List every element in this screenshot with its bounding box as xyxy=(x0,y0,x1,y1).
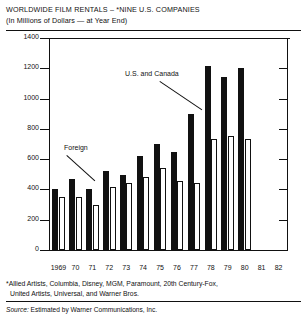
bar-domestic-76 xyxy=(171,152,177,250)
source-prefix: Source: xyxy=(6,306,29,313)
x-tick-label-80: 80 xyxy=(236,264,253,271)
footnote-line-1: *Allied Artists, Columbia, Disney, MGM, … xyxy=(6,279,301,289)
x-axis-line xyxy=(40,250,288,251)
y-tick-mark xyxy=(40,189,49,190)
bar-group-79 xyxy=(219,38,236,250)
bar-group-81 xyxy=(253,38,270,250)
bar-foreign-78 xyxy=(211,139,217,250)
y-tick-mark xyxy=(40,159,49,160)
bar-domestic-1969 xyxy=(52,189,58,250)
y-tick-label: 800 xyxy=(9,124,39,131)
y-tick-label: 1200 xyxy=(9,63,39,70)
y-tick-label: 400 xyxy=(9,184,39,191)
bar-foreign-76 xyxy=(177,181,183,250)
source-text: Estimated by Warner Communications, Inc. xyxy=(31,306,158,313)
x-tick-label-72: 72 xyxy=(101,264,118,271)
x-tick-label-81: 81 xyxy=(253,264,270,271)
bar-foreign-77 xyxy=(194,183,200,250)
bar-foreign-74 xyxy=(143,177,149,250)
bar-group-78 xyxy=(202,38,219,250)
source-divider xyxy=(6,301,301,302)
x-axis: 196970717273747576777879808182 xyxy=(6,264,301,276)
x-tick-label-75: 75 xyxy=(152,264,169,271)
footnote-line-2: United Artists, Universal, and Warner Br… xyxy=(6,289,301,299)
bar-domestic-71 xyxy=(86,189,92,250)
bar-group-80 xyxy=(236,38,253,250)
bar-group-77 xyxy=(185,38,202,250)
bar-domestic-70 xyxy=(69,179,75,250)
x-tick-label-78: 78 xyxy=(202,264,219,271)
y-tick-label: 200 xyxy=(9,215,39,222)
bar-domestic-80 xyxy=(238,68,244,250)
bar-domestic-73 xyxy=(120,175,126,250)
y-tick-mark xyxy=(40,99,49,100)
y-tick-label: 1000 xyxy=(9,94,39,101)
x-tick-label-70: 70 xyxy=(67,264,84,271)
annotation-foreign: Foreign xyxy=(64,144,88,151)
bar-foreign-1969 xyxy=(59,197,65,250)
y-tick-mark xyxy=(40,129,49,130)
bar-group-72 xyxy=(101,38,118,250)
bar-foreign-70 xyxy=(76,197,82,250)
x-tick-label-79: 79 xyxy=(219,264,236,271)
x-tick-label-74: 74 xyxy=(135,264,152,271)
bar-domestic-75 xyxy=(154,144,160,250)
plot-area: 1400120010008006004002000 U.S. and Canad… xyxy=(6,31,301,263)
y-tick-label: 1400 xyxy=(9,33,39,40)
x-tick-label-76: 76 xyxy=(169,264,186,271)
bar-foreign-79 xyxy=(228,136,234,250)
source-note: Source: Estimated by Warner Communicatio… xyxy=(6,305,301,314)
bar-domestic-79 xyxy=(221,77,227,250)
bar-foreign-71 xyxy=(93,205,99,250)
y-tick-mark xyxy=(40,68,49,69)
bar-foreign-75 xyxy=(160,168,166,250)
bar-foreign-72 xyxy=(110,187,116,250)
y-tick-label: 600 xyxy=(9,154,39,161)
right-axis-line xyxy=(287,38,288,250)
annotation-domestic: U.S. and Canada xyxy=(125,70,179,77)
bar-domestic-77 xyxy=(188,114,194,250)
chart-title: WORLDWIDE FILM RENTALS – *NINE U.S. COMP… xyxy=(6,5,301,15)
y-tick-mark xyxy=(40,220,49,221)
x-tick-label-1969: 1969 xyxy=(50,264,67,271)
x-tick-label-77: 77 xyxy=(185,264,202,271)
y-tick-label: 0 xyxy=(9,245,39,252)
bar-foreign-80 xyxy=(245,139,251,250)
chart-sheet: WORLDWIDE FILM RENTALS – *NINE U.S. COMP… xyxy=(0,0,307,322)
chart-subtitle: (In Millions of Dollars — at Year End) xyxy=(6,16,301,26)
bar-domestic-78 xyxy=(205,66,211,250)
bar-foreign-73 xyxy=(126,183,132,250)
x-tick-label-82: 82 xyxy=(270,264,287,271)
x-tick-label-73: 73 xyxy=(118,264,135,271)
bar-domestic-74 xyxy=(137,156,143,250)
bar-domestic-72 xyxy=(103,171,109,250)
bar-group-82 xyxy=(270,38,287,250)
x-tick-label-71: 71 xyxy=(84,264,101,271)
footnote: *Allied Artists, Columbia, Disney, MGM, … xyxy=(6,279,301,298)
